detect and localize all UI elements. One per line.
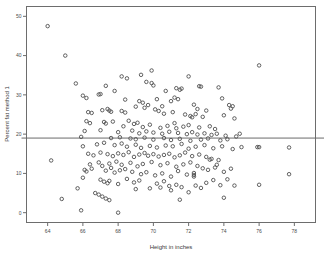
data-point — [196, 107, 200, 111]
data-point — [187, 123, 191, 127]
data-point — [229, 167, 233, 171]
data-point — [160, 132, 164, 136]
data-point — [182, 125, 186, 129]
x-tick-label: 70 — [151, 228, 157, 234]
data-point — [152, 131, 156, 135]
x-tick-label: 74 — [221, 228, 227, 234]
data-point — [136, 121, 140, 125]
data-point — [169, 189, 173, 193]
data-point — [129, 161, 133, 165]
data-point — [123, 111, 127, 115]
scatter-plot-figure: 6466687072747678 01020304050 Height in i… — [0, 0, 324, 253]
data-point — [231, 147, 235, 151]
data-point — [99, 151, 103, 155]
data-point — [222, 170, 226, 174]
data-point — [194, 184, 198, 188]
data-point — [125, 77, 129, 81]
data-point — [116, 182, 120, 186]
data-point — [118, 169, 122, 173]
data-point — [166, 161, 170, 165]
data-point — [148, 187, 152, 191]
data-point — [159, 126, 163, 130]
data-point — [138, 132, 142, 136]
data-point — [153, 108, 157, 112]
data-point — [141, 162, 145, 166]
data-point — [138, 99, 142, 103]
data-point — [134, 143, 138, 147]
data-point — [104, 84, 108, 88]
data-point — [167, 130, 171, 134]
data-point — [146, 154, 150, 158]
data-point — [159, 186, 163, 190]
data-point — [287, 172, 291, 176]
data-point — [203, 132, 207, 136]
data-point — [111, 120, 115, 124]
data-point — [132, 181, 136, 185]
data-point — [187, 147, 191, 151]
data-point — [180, 142, 184, 146]
data-point — [74, 82, 78, 86]
data-point — [183, 113, 187, 117]
data-point — [139, 73, 143, 77]
x-tick-label: 78 — [292, 228, 298, 234]
data-point — [85, 119, 89, 123]
data-point — [196, 164, 200, 168]
data-point — [233, 117, 237, 121]
data-point — [90, 111, 94, 115]
data-point — [224, 134, 228, 138]
data-point — [145, 130, 149, 134]
data-point — [132, 122, 136, 126]
data-point — [92, 154, 96, 158]
data-point — [190, 154, 194, 158]
y-tick-label: 20 — [16, 131, 22, 137]
data-point — [46, 24, 50, 28]
data-point — [109, 166, 113, 170]
data-point — [197, 126, 201, 129]
data-point — [104, 169, 108, 173]
data-point — [153, 174, 157, 178]
x-tick-label: 72 — [186, 228, 192, 234]
data-point — [220, 145, 224, 149]
data-point — [113, 143, 117, 147]
data-point — [115, 160, 119, 164]
data-point — [175, 183, 179, 187]
data-point — [204, 109, 208, 113]
data-point — [169, 175, 173, 179]
data-point — [81, 145, 85, 149]
data-point — [190, 130, 194, 134]
y-tick-label: 40 — [16, 52, 22, 58]
data-point — [199, 186, 203, 190]
data-point — [141, 101, 145, 105]
data-point — [220, 97, 224, 101]
data-point — [208, 125, 212, 129]
data-point — [189, 161, 193, 165]
data-point — [93, 191, 97, 195]
data-point — [204, 181, 208, 185]
y-tick-label: 30 — [16, 92, 22, 98]
data-point — [148, 144, 152, 148]
data-point — [60, 197, 64, 201]
data-point — [120, 75, 124, 79]
data-point — [125, 145, 129, 149]
data-point — [233, 184, 237, 188]
data-point — [99, 178, 103, 182]
data-point — [64, 54, 68, 58]
data-point — [160, 172, 164, 176]
data-point — [122, 153, 126, 157]
data-point — [146, 103, 150, 107]
data-point — [166, 124, 170, 128]
data-point — [257, 183, 261, 187]
y-axis-title: Percent fat method 1 — [4, 85, 10, 141]
data-point — [173, 156, 177, 160]
data-point — [81, 176, 85, 180]
data-point — [141, 125, 145, 129]
data-point — [167, 152, 171, 156]
data-point — [152, 152, 156, 156]
data-point — [160, 105, 164, 109]
data-point — [175, 127, 179, 131]
data-point — [106, 152, 110, 156]
plot-frame-rect — [27, 7, 316, 223]
data-point — [227, 103, 231, 107]
data-point — [101, 164, 105, 168]
data-point — [120, 109, 124, 113]
